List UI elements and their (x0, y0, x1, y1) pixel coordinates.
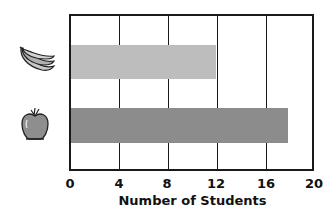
x-tick-20: 20 (305, 176, 323, 191)
x-tick-4: 4 (114, 176, 123, 191)
gridline-16 (266, 16, 267, 169)
apple-icon (20, 106, 50, 142)
bar-apples (71, 108, 288, 143)
gridline-8 (168, 16, 169, 169)
bar-bananas (71, 45, 216, 79)
x-tick-16: 16 (257, 176, 275, 191)
plot-area (69, 14, 314, 171)
x-tick-0: 0 (65, 176, 74, 191)
x-axis-label: Number of Students (0, 193, 333, 208)
gridline-4 (119, 16, 120, 169)
x-tick-12: 12 (207, 176, 225, 191)
x-tick-8: 8 (162, 176, 171, 191)
banana-icon (18, 46, 56, 74)
gridline-12 (217, 16, 218, 169)
